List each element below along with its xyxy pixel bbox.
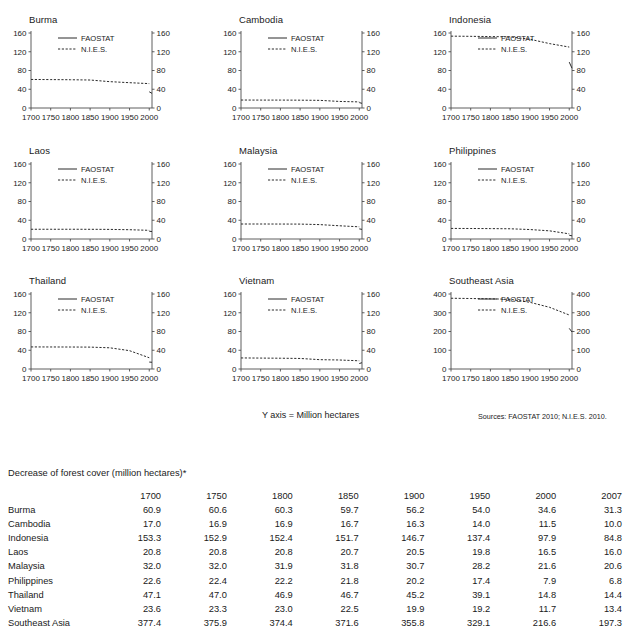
legend-label-nies: N.I.E.S. [81, 45, 107, 54]
svg-text:120: 120 [367, 179, 381, 188]
table-cell: 19.8 [426, 546, 492, 560]
table-cell: 31.8 [295, 560, 361, 574]
table-row-label: Indonesia [8, 532, 97, 546]
svg-text:0: 0 [232, 365, 237, 374]
svg-text:80: 80 [367, 327, 376, 336]
svg-text:120: 120 [433, 179, 447, 188]
svg-text:1950: 1950 [541, 113, 559, 122]
svg-text:80: 80 [438, 66, 447, 75]
legend-label-faostat: FAOSTAT [81, 165, 115, 174]
svg-text:160: 160 [433, 160, 447, 169]
legend-label-nies: N.I.E.S. [501, 45, 527, 54]
svg-text:1750: 1750 [252, 244, 270, 253]
table-col-header: 2007 [558, 490, 624, 504]
svg-text:1750: 1750 [42, 113, 60, 122]
chart-svg: 0010010020020030030040040017001750180018… [420, 265, 630, 396]
svg-text:2000: 2000 [350, 113, 368, 122]
svg-text:1700: 1700 [442, 244, 460, 253]
table-cell: 377.4 [97, 617, 163, 630]
svg-text:160: 160 [223, 290, 237, 299]
svg-text:120: 120 [223, 48, 237, 57]
table-row: Thailand47.147.046.946.745.239.114.814.4 [8, 589, 624, 603]
svg-text:2000: 2000 [560, 244, 578, 253]
svg-text:0: 0 [577, 365, 582, 374]
chart-svg: 0040408080120120160160170017501800185019… [0, 135, 210, 266]
table-cell: 153.3 [97, 532, 163, 546]
svg-text:1800: 1800 [62, 113, 80, 122]
svg-text:40: 40 [157, 346, 166, 355]
svg-text:120: 120 [157, 309, 171, 318]
svg-text:100: 100 [433, 346, 447, 355]
y-axis-units-note: Y axis = Million hectares [262, 410, 359, 420]
svg-text:0: 0 [22, 365, 27, 374]
svg-text:160: 160 [223, 160, 237, 169]
legend-label-faostat: FAOSTAT [291, 34, 325, 43]
svg-text:40: 40 [228, 216, 237, 225]
svg-text:40: 40 [367, 216, 376, 225]
table-cell: 59.7 [295, 504, 361, 518]
svg-text:1900: 1900 [101, 113, 119, 122]
table-cell: 47.1 [97, 589, 163, 603]
table-cell: 19.2 [426, 603, 492, 617]
table-row: Burma60.960.660.359.756.254.034.631.3 [8, 504, 624, 518]
svg-text:40: 40 [438, 216, 447, 225]
svg-text:1850: 1850 [81, 244, 99, 253]
table-cell: 60.9 [97, 504, 163, 518]
svg-text:160: 160 [157, 29, 171, 38]
svg-text:80: 80 [367, 197, 376, 206]
table-cell: 20.7 [295, 546, 361, 560]
svg-text:1950: 1950 [541, 244, 559, 253]
svg-text:1900: 1900 [521, 374, 539, 383]
chart-svg: 0040408080120120160160170017501800185019… [420, 135, 630, 266]
chart-panel: Thailand00404080801201201601601700175018… [0, 265, 210, 395]
table-cell: 84.8 [558, 532, 624, 546]
table-cell: 23.3 [163, 603, 229, 617]
table-cell: 22.6 [97, 575, 163, 589]
table-cell: 20.8 [163, 546, 229, 560]
svg-text:1900: 1900 [521, 113, 539, 122]
svg-text:120: 120 [577, 48, 591, 57]
svg-text:0: 0 [22, 235, 27, 244]
chart-svg: 0040408080120120160160170017501800185019… [210, 265, 420, 396]
chart-panel-grid: Burma00404080801201201601601700175018001… [0, 4, 632, 395]
chart-plot-8: 0010010020020030030040040017001750180018… [420, 265, 630, 400]
chart-plot-2: 0040408080120120160160170017501800185019… [420, 4, 630, 139]
svg-text:1750: 1750 [252, 374, 270, 383]
svg-text:120: 120 [367, 48, 381, 57]
chart-panel: Malaysia00404080801201201601601700175018… [210, 135, 420, 265]
svg-text:160: 160 [577, 29, 591, 38]
chart-plot-1: 0040408080120120160160170017501800185019… [210, 4, 420, 139]
table-cell: 60.6 [163, 504, 229, 518]
svg-text:1850: 1850 [81, 374, 99, 383]
svg-text:0: 0 [232, 235, 237, 244]
series-nies [241, 224, 359, 227]
svg-text:120: 120 [367, 309, 381, 318]
table-cell: 16.9 [163, 518, 229, 532]
table-col-header: 1850 [295, 490, 361, 504]
svg-text:80: 80 [157, 197, 166, 206]
table-cell: 21.8 [295, 575, 361, 589]
svg-text:300: 300 [577, 309, 591, 318]
table-cell: 13.4 [558, 603, 624, 617]
svg-text:1700: 1700 [22, 374, 40, 383]
forest-cover-table: 17001750180018501900195020002007 Burma60… [8, 490, 624, 630]
table-cell: 216.6 [492, 617, 558, 630]
svg-text:1950: 1950 [331, 113, 349, 122]
legend-label-faostat: FAOSTAT [501, 295, 535, 304]
table-cell: 197.3 [558, 617, 624, 630]
chart-plot-6: 0040408080120120160160170017501800185019… [0, 265, 210, 400]
table-cell: 54.0 [426, 504, 492, 518]
svg-text:0: 0 [157, 235, 162, 244]
svg-text:0: 0 [367, 365, 372, 374]
svg-text:0: 0 [442, 104, 447, 113]
svg-text:1800: 1800 [62, 374, 80, 383]
chart-svg: 0040408080120120160160170017501800185019… [210, 4, 420, 135]
table-cell: 7.9 [492, 575, 558, 589]
legend-label-faostat: FAOSTAT [81, 295, 115, 304]
table-cell: 22.5 [295, 603, 361, 617]
svg-text:1950: 1950 [121, 374, 139, 383]
table-body: Burma60.960.660.359.756.254.034.631.3Cam… [8, 504, 624, 630]
svg-text:40: 40 [367, 85, 376, 94]
table-cell: 146.7 [361, 532, 427, 546]
svg-text:2000: 2000 [350, 374, 368, 383]
